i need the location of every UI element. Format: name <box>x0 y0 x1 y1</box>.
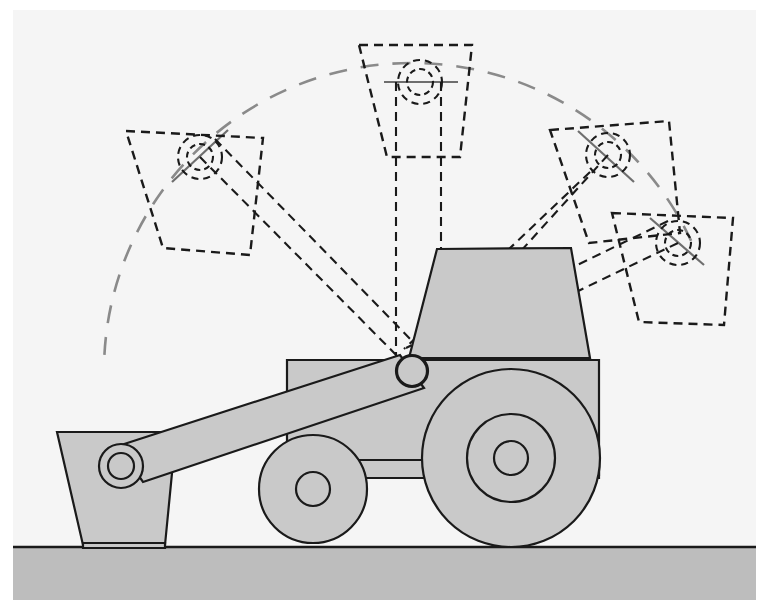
diagram-stage: Wheel loader boom lift kinematics side v… <box>0 0 769 616</box>
ground-band <box>13 547 756 600</box>
operator-cab <box>409 248 590 358</box>
bucket-cutting-edge <box>83 543 165 548</box>
front-wheel <box>259 435 367 543</box>
ground <box>13 547 756 600</box>
boom-pivot-bore <box>397 356 427 386</box>
boom-end-bore <box>108 453 134 479</box>
rear-wheel-hub <box>494 441 528 475</box>
loader-kinematics-diagram: Wheel loader boom lift kinematics side v… <box>0 0 769 616</box>
front-wheel-hub <box>296 472 330 506</box>
rear-wheel <box>422 369 600 547</box>
